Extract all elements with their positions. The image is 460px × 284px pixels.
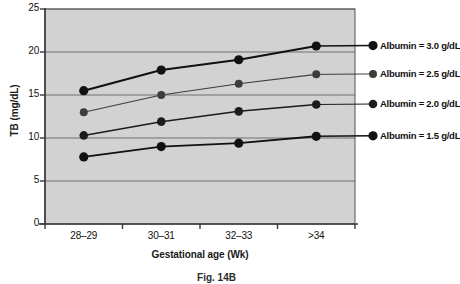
figure-caption: Fig. 14B [0,272,433,283]
x-tick-label: >34 [278,230,356,246]
data-point [157,142,166,151]
data-point [312,132,321,141]
y-tick-label: 25 [9,2,39,13]
data-point [157,91,165,99]
data-point [80,108,88,116]
x-tick-label: 32–33 [200,230,278,246]
data-point [79,131,88,140]
legend-marker [369,70,377,78]
data-point [234,139,243,148]
data-point [312,70,320,78]
series-label: Albumin = 2.5 g/dL [380,68,460,79]
y-tick-label: 15 [9,88,39,99]
x-axis-tick-labels: 28–2930–3132–33>34 [45,230,355,246]
x-tick-label: 30–31 [123,230,201,246]
x-tick-label: 28–29 [45,230,123,246]
x-axis-title: Gestational age (Wk) [45,249,355,260]
data-point [157,65,166,74]
series-label: Albumin = 2.0 g/dL [380,98,460,109]
series-label: Albumin = 3.0 g/dL [380,40,460,51]
y-tick-label: 20 [9,45,39,56]
data-point [79,152,88,161]
legend-marker [368,41,377,50]
data-point [157,117,166,126]
legend-marker [369,100,378,109]
y-tick-label: 0 [9,217,39,228]
y-tick-label: 10 [9,131,39,142]
y-tick-label: 5 [9,174,39,185]
data-point [234,107,243,116]
data-point [235,80,243,88]
series-label: Albumin = 1.5 g/dL [380,130,460,141]
data-point [312,41,321,50]
data-point [234,55,243,64]
legend-marker [368,131,377,140]
data-point [312,100,321,109]
y-axis-tick-labels: 0510152025 [6,0,39,284]
data-point [79,86,88,95]
